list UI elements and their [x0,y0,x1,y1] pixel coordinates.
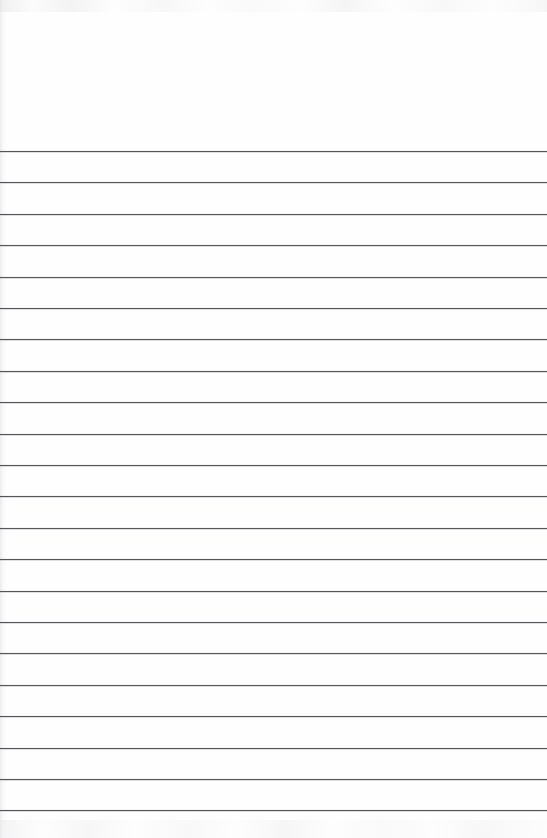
writing-line-row[interactable] [0,245,547,276]
writing-line-row[interactable] [0,434,547,465]
writing-line-row[interactable] [0,591,547,622]
writing-line-row[interactable] [0,716,547,747]
writing-line-row[interactable] [0,559,547,590]
writing-line-row[interactable] [0,653,547,684]
writing-line-row[interactable] [0,182,547,213]
writing-line-row[interactable] [0,339,547,370]
writing-line-row[interactable] [0,465,547,496]
writing-line-row[interactable] [0,214,547,245]
writing-line-row[interactable] [0,779,547,810]
writing-line-row[interactable] [0,402,547,433]
writing-line-row[interactable] [0,496,547,527]
writing-line-row[interactable] [0,277,547,308]
writing-line-row[interactable] [0,748,547,779]
writing-line-row[interactable] [0,371,547,402]
scanned-page [0,0,547,838]
writing-line-row[interactable] [0,308,547,339]
writing-line-row[interactable] [0,120,547,151]
writing-line-row[interactable] [0,528,547,559]
writing-line-row[interactable] [0,151,547,182]
writing-line-row[interactable] [0,685,547,716]
writing-line-row[interactable] [0,622,547,653]
